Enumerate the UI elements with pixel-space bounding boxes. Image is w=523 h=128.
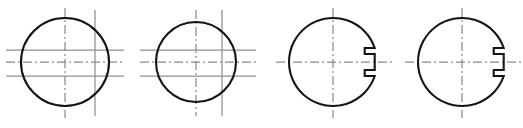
figure-1 [6,8,124,118]
figure-3 [276,8,392,118]
engineering-drawing-sheet [0,0,523,128]
figure-2 [140,10,256,116]
drawing-canvas [0,0,523,128]
figure-4 [405,8,521,118]
